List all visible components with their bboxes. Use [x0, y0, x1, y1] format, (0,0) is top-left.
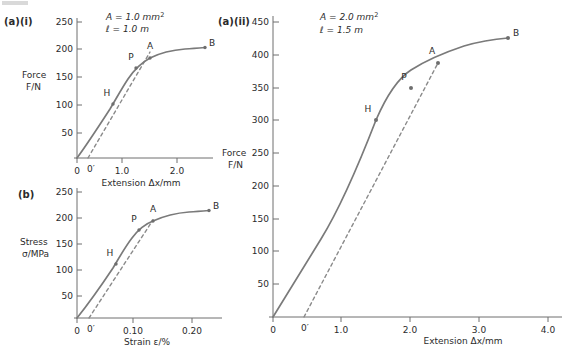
panel-a-ii-point-B [506, 36, 510, 40]
panel-a-i-ylabel-50: 50 [62, 128, 74, 138]
panel-a-i-label-H: H [104, 88, 111, 98]
panel-b-xlabel-0.10: 0.10 [123, 326, 143, 336]
panel-a-ii-y-title-line1: Force [222, 148, 247, 158]
panel-a-i-xlabel-0prime: 0′ [87, 164, 95, 174]
figure-container: (a)(i) 250 200 150 100 50 Force F/N 0 0′… [0, 0, 570, 346]
panel-a-ii-ylabel-250: 250 [252, 148, 269, 158]
panel-a-ii-xlabel-4.0: 4.0 [541, 325, 556, 335]
panel-a-ii-ylabel-50: 50 [258, 279, 270, 289]
panel-a-ii-label-A: A [429, 46, 436, 56]
panel-a-ii-loading-curve [273, 38, 508, 317]
panel-a-i-xlabel-1.0: 1.0 [115, 166, 130, 176]
panel-a-ii-ylabel-300: 300 [252, 115, 269, 125]
panel-a-ii-ylabel-100: 100 [252, 246, 269, 256]
panel-a-i: (a)(i) 250 200 150 100 50 Force F/N 0 0′… [4, 11, 215, 188]
panel-b-point-A [151, 219, 154, 222]
panel-a-ii-label-H: H [365, 104, 372, 114]
panel-a-ii-ylabel-450: 450 [252, 17, 269, 27]
panel-a-i-ylabel-100: 100 [56, 100, 73, 110]
panel-a-ii-xlabel-2.0: 2.0 [403, 325, 418, 335]
panel-a-i-ylabel-150: 150 [56, 72, 73, 82]
panel-a-i-x-title: Extension Δx/mm [101, 178, 180, 188]
panel-a-ii-xlabel-1.0: 1.0 [334, 325, 349, 335]
panel-a-ii-x-title: Extension Δx/mm [423, 336, 502, 346]
panel-b-label-H: H [107, 248, 114, 258]
panel-b-label: (b) [18, 189, 34, 200]
panel-b-y-title-line1: Stress [20, 237, 48, 247]
panel-a-i-ylabel-200: 200 [56, 44, 73, 54]
panel-a-ii-annot-length: ℓ = 1.5 m [319, 25, 363, 35]
panel-b-xlabel-0.20: 0.20 [182, 326, 202, 336]
panel-b-ylabel-50: 50 [62, 291, 74, 301]
panel-a-ii-point-H [374, 118, 378, 122]
panel-a-i-y-title-line1: Force [22, 70, 47, 80]
panel-b-point-B [207, 209, 210, 212]
panel-a-i-xlabel-2.0: 2.0 [170, 166, 185, 176]
panel-a-i-point-P [134, 66, 137, 69]
panel-b-xlabel-0: 0 [74, 326, 80, 336]
panel-b-ylabel-200: 200 [56, 213, 73, 223]
panel-a-ii-ylabel-150: 150 [252, 214, 269, 224]
panel-a-ii-xlabel-3.0: 3.0 [472, 325, 487, 335]
panel-a-i-label-B: B [209, 38, 215, 48]
panel-a-i-label: (a)(i) [4, 16, 32, 27]
panel-b-label-P: P [131, 214, 137, 224]
panel-b: (b) 250 200 150 100 50 Stress σ/MPa 0 0′… [18, 187, 222, 346]
panel-b-ylabel-150: 150 [56, 239, 73, 249]
panel-a-ii-ylabel-200: 200 [252, 181, 269, 191]
panel-a-ii-xlabel-0prime: 0′ [301, 323, 309, 333]
panel-b-ylabel-250: 250 [56, 187, 73, 197]
panel-a-i-point-A [148, 56, 151, 59]
panel-a-ii-xlabel-0: 0 [270, 325, 276, 335]
panel-b-xlabel-0prime: 0′ [87, 324, 95, 334]
panel-b-point-P [137, 228, 140, 231]
figure-svg: (a)(i) 250 200 150 100 50 Force F/N 0 0′… [0, 0, 570, 346]
panel-b-dashed-line [89, 220, 153, 318]
panel-a-ii-dashed-line [304, 63, 438, 317]
panel-a-ii-ylabel-350: 350 [252, 83, 269, 93]
panel-b-label-A: A [150, 204, 157, 214]
panel-b-x-title: Strain ε/% [124, 337, 170, 346]
panel-a-i-annot-area: A = 1.0 mm2 [105, 11, 164, 22]
panel-a-i-annot-length: ℓ = 1.0 m [105, 24, 149, 34]
panel-a-ii-y-title-line2: F/N [228, 160, 243, 170]
panel-a-ii-label-B: B [513, 28, 519, 38]
panel-a-ii-ylabel-400: 400 [252, 50, 269, 60]
panel-a-i-dashed-line [88, 52, 150, 158]
panel-a-i-point-H [111, 102, 114, 105]
panel-a-i-loading-curve [77, 48, 205, 159]
panel-a-i-label-P: P [128, 52, 134, 62]
panel-a-ii: (a)(ii) 450 400 350 300 250 200 150 100 … [218, 11, 562, 346]
panel-a-i-label-A: A [147, 41, 154, 51]
panel-a-i-y-title-line2: F/N [26, 82, 41, 92]
panel-a-ii-label: (a)(ii) [218, 16, 250, 27]
panel-a-ii-point-A [436, 61, 440, 65]
panel-b-y-title-line2: σ/MPa [22, 249, 49, 259]
panel-b-loading-curve [77, 211, 209, 319]
panel-a-i-ylabel-250: 250 [56, 17, 73, 27]
panel-b-label-B: B [213, 201, 219, 211]
panel-b-ylabel-100: 100 [56, 265, 73, 275]
panel-a-ii-label-P: P [401, 72, 407, 82]
panel-b-point-H [114, 262, 117, 265]
panel-a-i-point-B [203, 46, 206, 49]
panel-a-ii-point-P [409, 86, 413, 90]
scan-artifact [2, 1, 28, 5]
panel-a-i-xlabel-0: 0 [74, 166, 80, 176]
panel-a-ii-annot-area: A = 2.0 mm2 [319, 11, 378, 22]
